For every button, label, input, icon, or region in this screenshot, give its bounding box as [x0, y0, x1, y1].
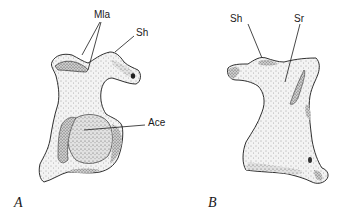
label-sr: Sr: [294, 14, 304, 24]
leader-mla-1: [82, 22, 100, 55]
bone-a-lobe-pit: [131, 73, 135, 79]
bone-b-pit: [308, 157, 312, 163]
leader-sh-b: [248, 24, 262, 58]
bone-b-outline: [227, 57, 328, 183]
label-sh-b: Sh: [230, 14, 242, 24]
panel-letter-a: A: [14, 196, 23, 210]
label-mla: Mla: [94, 10, 110, 20]
bone-illustrations: [0, 0, 348, 216]
panel-letter-b: B: [208, 196, 217, 210]
bone-a: [39, 22, 145, 182]
bone-b: [227, 24, 328, 183]
anatomical-figure: Mla Sh Ace A Sh Sr B: [0, 0, 348, 216]
label-ace: Ace: [148, 118, 165, 128]
leader-sh-a: [115, 36, 134, 52]
label-sh-a: Sh: [136, 28, 148, 38]
